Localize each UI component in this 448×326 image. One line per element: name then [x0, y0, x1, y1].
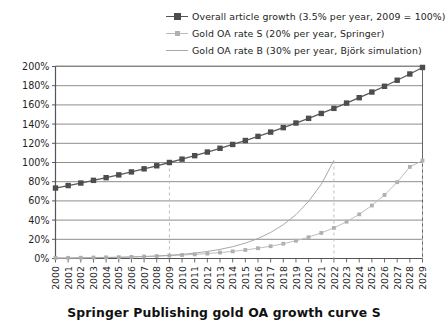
series-marker-0: [65, 183, 70, 188]
x-axis-tick-label: 2001: [63, 266, 74, 290]
series-marker-0: [382, 84, 387, 89]
series-line-2: [56, 161, 334, 259]
series-marker-0: [319, 111, 324, 116]
y-axis-tick-label: 120%: [22, 138, 49, 149]
y-axis-tick-label: 0%: [34, 253, 49, 264]
chart-title: Springer Publishing gold OA growth curve…: [0, 305, 448, 320]
series-marker-0: [217, 146, 222, 151]
y-axis-tick-label: 100%: [22, 157, 49, 168]
series-marker-0: [281, 125, 286, 130]
series-marker-0: [230, 142, 235, 147]
chart-svg: 0%20%40%60%80%100%120%140%160%180%200%20…: [0, 0, 448, 326]
series-marker-0: [293, 120, 298, 125]
series-marker-1: [269, 244, 273, 248]
series-marker-1: [332, 226, 336, 230]
series-marker-0: [78, 180, 83, 185]
y-axis-tick-label: 200%: [22, 61, 49, 72]
series-marker-1: [421, 159, 425, 163]
x-axis-tick-label: 2006: [126, 266, 137, 290]
x-axis-tick-label: 2023: [341, 266, 352, 290]
y-axis-tick-label: 20%: [28, 234, 49, 245]
series-marker-1: [395, 180, 399, 184]
series-marker-0: [268, 129, 273, 134]
series-marker-1: [256, 246, 260, 250]
series-marker-0: [179, 156, 184, 161]
x-axis-tick-label: 2027: [392, 266, 403, 290]
x-axis-tick-label: 2011: [189, 266, 200, 290]
y-axis-tick-label: 80%: [28, 176, 49, 187]
x-axis-tick-label: 2003: [88, 266, 99, 290]
x-axis-tick-label: 2007: [139, 266, 150, 290]
series-marker-0: [369, 89, 374, 94]
series-marker-0: [344, 100, 349, 105]
series-marker-0: [129, 169, 134, 174]
series-marker-1: [205, 252, 209, 256]
y-axis-tick-label: 180%: [22, 80, 49, 91]
x-axis-tick-label: 2021: [316, 266, 327, 290]
x-axis-tick-label: 2002: [75, 266, 86, 290]
series-marker-0: [103, 175, 108, 180]
series-marker-0: [141, 166, 146, 171]
x-axis-tick-label: 2022: [329, 266, 340, 290]
series-marker-0: [255, 134, 260, 139]
x-axis-tick-label: 2019: [291, 266, 302, 290]
x-axis-tick-label: 2012: [202, 266, 213, 290]
x-axis-tick-label: 2029: [417, 266, 428, 290]
x-axis-tick-label: 2025: [366, 266, 377, 290]
series-marker-0: [420, 65, 425, 70]
series-marker-0: [205, 149, 210, 154]
series-marker-0: [192, 153, 197, 158]
series-marker-1: [281, 242, 285, 246]
series-marker-0: [407, 71, 412, 76]
series-marker-1: [357, 212, 361, 216]
series-marker-0: [91, 178, 96, 183]
series-marker-0: [331, 106, 336, 111]
x-axis-tick-label: 2026: [379, 266, 390, 290]
x-axis-tick-label: 2016: [253, 266, 264, 290]
y-axis-tick-label: 60%: [28, 195, 49, 206]
y-axis-tick-label: 140%: [22, 119, 49, 130]
series-marker-0: [394, 78, 399, 83]
x-axis-tick-label: 2004: [101, 266, 112, 290]
chart-figure: Overall article growth (3.5% per year, 2…: [0, 0, 448, 326]
x-axis-tick-label: 2010: [177, 266, 188, 290]
x-axis-tick-label: 2020: [303, 266, 314, 290]
series-marker-0: [306, 116, 311, 121]
series-marker-1: [307, 235, 311, 239]
series-marker-0: [243, 138, 248, 143]
series-marker-1: [294, 239, 298, 243]
series-marker-1: [370, 204, 374, 208]
x-axis-tick-label: 2015: [240, 266, 251, 290]
plot-area: 0%20%40%60%80%100%120%140%160%180%200%20…: [0, 0, 448, 326]
x-axis-tick-label: 2005: [113, 266, 124, 290]
series-marker-0: [116, 172, 121, 177]
series-line-1: [56, 161, 423, 258]
y-axis-tick-label: 40%: [28, 215, 49, 226]
series-marker-1: [180, 253, 184, 257]
x-axis-tick-label: 2000: [50, 266, 61, 290]
x-axis-tick-label: 2024: [354, 266, 365, 290]
x-axis-tick-label: 2014: [227, 266, 238, 290]
series-marker-1: [218, 251, 222, 255]
series-marker-0: [154, 163, 159, 168]
series-marker-1: [243, 248, 247, 252]
series-marker-0: [53, 185, 58, 190]
x-axis-tick-label: 2018: [278, 266, 289, 290]
series-marker-1: [345, 220, 349, 224]
series-marker-1: [383, 193, 387, 197]
x-axis-tick-label: 2009: [164, 266, 175, 290]
x-axis-tick-label: 2028: [404, 266, 415, 290]
series-marker-0: [357, 95, 362, 100]
series-marker-0: [167, 160, 172, 165]
y-axis-tick-label: 160%: [22, 99, 49, 110]
series-marker-1: [408, 165, 412, 169]
series-marker-1: [231, 250, 235, 254]
x-axis-tick-label: 2017: [265, 266, 276, 290]
x-axis-tick-label: 2008: [151, 266, 162, 290]
series-marker-1: [319, 231, 323, 235]
x-axis-tick-label: 2013: [215, 266, 226, 290]
